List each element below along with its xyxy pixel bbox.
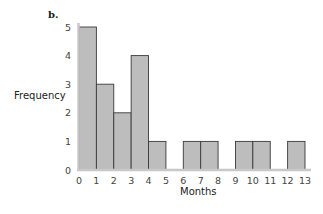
x-tick-label: 1 bbox=[93, 175, 99, 186]
histogram-bar bbox=[253, 141, 270, 170]
histogram-bar bbox=[201, 141, 218, 170]
x-tick-label: 9 bbox=[232, 175, 238, 186]
histogram-bars bbox=[79, 27, 305, 170]
x-tick-label: 12 bbox=[282, 175, 294, 186]
x-tick-labels: 012345678910111213 bbox=[76, 175, 311, 186]
x-tick-label: 13 bbox=[299, 175, 311, 186]
histogram-bar bbox=[288, 141, 305, 170]
histogram-bar bbox=[149, 141, 166, 170]
histogram-bar bbox=[96, 84, 113, 170]
y-tick-label: 5 bbox=[65, 22, 71, 33]
histogram-bar bbox=[235, 141, 252, 170]
y-tick-label: 3 bbox=[65, 79, 71, 90]
x-tick-label: 7 bbox=[198, 175, 204, 186]
histogram-chart: 012345678910111213 012345 bbox=[0, 0, 323, 214]
y-tick-label: 0 bbox=[65, 165, 71, 176]
y-tick-label: 4 bbox=[65, 50, 71, 61]
x-tick-label: 0 bbox=[76, 175, 82, 186]
x-tick-label: 8 bbox=[215, 175, 221, 186]
y-tick-label: 2 bbox=[65, 107, 71, 118]
x-tick-label: 5 bbox=[163, 175, 169, 186]
histogram-bar bbox=[114, 113, 131, 170]
x-tick-label: 4 bbox=[146, 175, 152, 186]
histogram-bar bbox=[183, 141, 200, 170]
x-tick-label: 11 bbox=[264, 175, 276, 186]
y-tick-label: 1 bbox=[65, 136, 71, 147]
histogram-bar bbox=[79, 27, 96, 170]
x-tick-label: 3 bbox=[128, 175, 134, 186]
y-tick-labels: 012345 bbox=[65, 22, 71, 176]
x-tick-label: 6 bbox=[180, 175, 186, 186]
x-tick-label: 10 bbox=[247, 175, 259, 186]
x-tick-label: 2 bbox=[111, 175, 117, 186]
histogram-bar bbox=[131, 56, 148, 170]
